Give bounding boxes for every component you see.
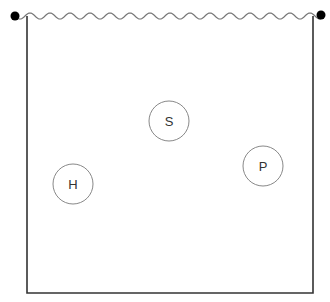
node-h: H <box>53 164 93 204</box>
node-p: P <box>243 146 283 186</box>
node-p-label: P <box>259 159 268 174</box>
wavy-top-edge <box>15 13 321 19</box>
container-outline <box>27 16 313 293</box>
right-anchor-dot <box>317 11 326 20</box>
diagram-canvas: S H P <box>0 0 330 302</box>
node-h-label: H <box>68 177 77 192</box>
node-s-label: S <box>165 114 174 129</box>
node-s: S <box>149 101 189 141</box>
left-anchor-dot <box>11 12 20 21</box>
